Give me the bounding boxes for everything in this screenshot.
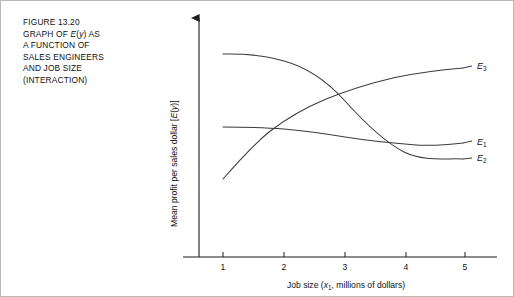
x-tick-label-4: 4: [404, 262, 409, 272]
x-tick-label-2: 2: [282, 262, 287, 272]
curve-e1: [223, 127, 463, 145]
curve-e2: [223, 54, 463, 159]
leader-line-e1: [463, 141, 472, 143]
x-tick-label-3: 3: [343, 262, 348, 272]
curve-e3: [223, 68, 463, 179]
leader-line-e3: [463, 66, 472, 68]
chart-plot-area: 1 2 3 4 5 Mean profit per sales dollar […: [1, 1, 514, 297]
leader-line-e2: [463, 158, 472, 159]
figure-container: FIGURE 13.20 GRAPH OF E(y) AS A FUNCTION…: [0, 0, 514, 297]
curve-label-e1: E1: [477, 137, 487, 148]
curve-label-e3: E3: [477, 61, 487, 72]
x-tick-label-1: 1: [221, 262, 226, 272]
y-axis-title: Mean profit per sales dollar [E(y)]: [169, 100, 179, 227]
curve-label-e2: E2: [477, 153, 487, 164]
x-axis-title: Job size (x1, millions of dollars): [287, 280, 405, 291]
x-tick-label-5: 5: [463, 262, 468, 272]
